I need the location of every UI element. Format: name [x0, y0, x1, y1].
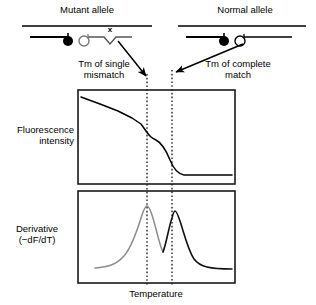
figure-canvas: x	[0, 0, 316, 305]
normal-allele-schematic	[178, 26, 306, 46]
derivative-peak-mismatch	[95, 206, 163, 268]
mutant-probe-mismatch-bulge	[88, 37, 132, 44]
derivative-axis-label: Derivative (−dF/dT)	[0, 223, 74, 245]
fluorescence-axis-label: Fluorescence intensity	[0, 124, 74, 146]
derivative-plot-box	[78, 191, 235, 283]
derivative-peak-match	[163, 211, 232, 269]
fluorophore-circle-mutant	[79, 36, 89, 46]
melting-curve-line	[81, 97, 232, 175]
normal-allele-title: Normal allele	[190, 4, 300, 15]
melting-curve-figure: x Mutant allele Norma	[0, 0, 316, 305]
mismatch-x-marker: x	[108, 25, 113, 34]
mutant-allele-schematic: x	[22, 25, 152, 46]
quencher-dot-mutant	[63, 36, 73, 46]
mutant-allele-title: Mutant allele	[32, 4, 142, 15]
tm-match-annotation: Tm of complete match	[190, 58, 286, 80]
tm-mismatch-annotation: Tm of single mismatch	[62, 58, 146, 80]
quencher-dot-normal	[219, 36, 229, 46]
temperature-axis-label: Temperature	[108, 288, 204, 299]
